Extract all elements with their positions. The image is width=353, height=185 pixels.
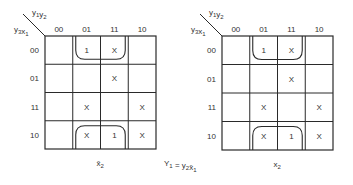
cell-value: X xyxy=(139,103,145,112)
row-header: 11 xyxy=(208,103,217,112)
row-header: 01 xyxy=(30,74,39,83)
row-header: 00 xyxy=(30,46,39,55)
row-header: 10 xyxy=(30,131,39,140)
cell-value: X xyxy=(316,132,322,141)
column-header: 00 xyxy=(231,25,240,34)
map-caption: x̄2 xyxy=(96,159,104,169)
column-variables-label: y1y2 xyxy=(209,8,224,20)
map-caption: x2 xyxy=(274,160,282,170)
row-header: 11 xyxy=(31,103,40,112)
cell-value: X xyxy=(84,131,90,140)
cell-value: 1 xyxy=(84,46,89,55)
map-x2: y1y2y3x100011110000111101XXXXX1Xx2 xyxy=(191,8,333,170)
equation: Y1 = y2x̄1 xyxy=(164,159,197,173)
cell-value: 1 xyxy=(289,132,294,141)
cell-value: X xyxy=(289,75,295,84)
column-header: 10 xyxy=(315,25,324,34)
cell-value: X xyxy=(289,46,295,55)
column-header: 10 xyxy=(138,25,147,34)
cell-value: X xyxy=(316,103,322,112)
cell-value: 1 xyxy=(112,131,117,140)
row-header: 00 xyxy=(207,46,216,55)
cell-value: X xyxy=(84,103,90,112)
map-x2-bar: y1y2y3x100011110000111101XXXXX1Xx̄2 xyxy=(14,8,156,169)
column-header: 01 xyxy=(259,25,268,34)
column-header: 11 xyxy=(287,25,296,34)
cell-value: X xyxy=(261,132,267,141)
row-variables-label: y3x1 xyxy=(14,25,29,37)
column-header: 11 xyxy=(110,25,119,34)
row-header: 01 xyxy=(207,75,216,84)
cell-value: X xyxy=(261,103,267,112)
column-header: 00 xyxy=(54,25,63,34)
cell-value: X xyxy=(139,131,145,140)
row-header: 10 xyxy=(207,132,216,141)
column-header: 01 xyxy=(82,25,91,34)
cell-value: X xyxy=(112,74,118,83)
cell-value: 1 xyxy=(261,46,266,55)
karnaugh-diagram: y1y2y3x100011110000111101XXXXX1Xx̄2y1y2y… xyxy=(0,0,353,185)
column-variables-label: y1y2 xyxy=(32,8,47,20)
cell-value: X xyxy=(112,46,118,55)
row-variables-label: y3x1 xyxy=(191,25,206,37)
equation-text: Y1 = y2x̄1 xyxy=(164,159,197,173)
